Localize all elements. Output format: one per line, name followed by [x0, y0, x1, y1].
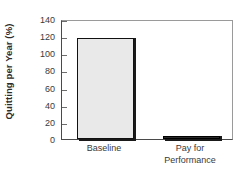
y-axis-title-text: Quitting per Year (%) — [4, 24, 15, 120]
x-tick-label-line: Pay for — [147, 143, 233, 155]
y-tick-mark — [62, 90, 67, 91]
bar-chart-figure: Quitting per Year (%) 020406080100120140… — [0, 0, 248, 173]
y-tick-mark — [62, 124, 67, 125]
y-tick-mark — [62, 72, 67, 73]
y-tick-label: 20 — [45, 118, 55, 128]
y-tick-mark — [62, 55, 67, 56]
x-tick-label: Pay forPerformance — [147, 143, 233, 166]
x-tick-label: Baseline — [61, 143, 147, 155]
x-tick-label-line: Performance — [147, 155, 233, 167]
y-tick-label: 60 — [45, 84, 55, 94]
y-tick-label: 100 — [40, 49, 55, 59]
y-tick-label: 140 — [40, 15, 55, 25]
y-tick-label: 40 — [45, 101, 55, 111]
y-tick-mark — [62, 38, 67, 39]
y-axis-tick-labels: 020406080100120140 — [18, 14, 58, 146]
x-tick-label-line: Baseline — [61, 143, 147, 155]
bar — [163, 136, 220, 139]
x-axis-tick-labels: BaselinePay forPerformance — [61, 143, 233, 173]
y-tick-label: 80 — [45, 66, 55, 76]
y-tick-mark — [62, 21, 67, 22]
y-tick-label: 0 — [50, 135, 55, 145]
y-axis-title: Quitting per Year (%) — [0, 0, 18, 143]
plot-area — [61, 20, 233, 140]
bar — [77, 38, 134, 139]
y-tick-label: 120 — [40, 32, 55, 42]
y-tick-mark — [62, 107, 67, 108]
